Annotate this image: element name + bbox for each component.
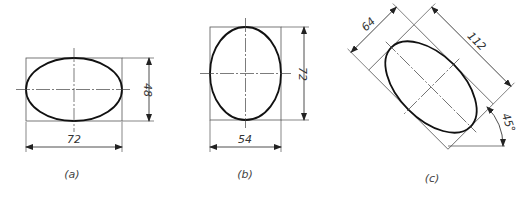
dimension-height-a: 48 — [141, 83, 154, 97]
figure-a: 72 48 (a) — [16, 48, 154, 181]
figure-c: 112 64 45° (c) — [336, 0, 527, 185]
dimension-minor-c: 64 — [359, 15, 378, 34]
figure-label-b: (b) — [237, 168, 253, 181]
figure-label-a: (a) — [64, 168, 79, 181]
figure-label-c: (c) — [425, 172, 440, 185]
figure-b: 54 72 (b) — [200, 18, 309, 181]
dimension-width-b: 54 — [238, 133, 252, 146]
dimension-width-a: 72 — [67, 133, 81, 146]
dimension-major-c: 112 — [465, 29, 489, 53]
ellipse-drawing-figure: 72 48 (a) 54 72 (b) — [0, 0, 530, 200]
angle-dimension-c: 45° — [499, 111, 518, 134]
drawing-canvas: 72 48 (a) 54 72 (b) — [0, 0, 530, 200]
dimension-height-b: 72 — [296, 67, 309, 81]
